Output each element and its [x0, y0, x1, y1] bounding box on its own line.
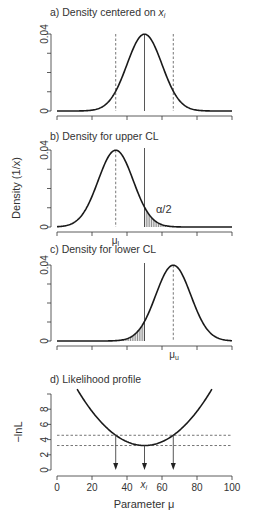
panel-title: a) Density centered on xi	[50, 6, 166, 19]
likelihood-curve	[77, 389, 212, 445]
panel-title: b) Density for upper CL	[50, 130, 159, 142]
y-tick-label: 8	[39, 406, 50, 412]
x-tick-label: 80	[191, 482, 203, 493]
y-tick-label: 6	[39, 421, 50, 427]
x-tick-label: 100	[224, 482, 241, 493]
y-axis-title: Density (1/x)	[10, 157, 22, 219]
y-tick-label: 0.04	[39, 255, 50, 275]
arrow-head-icon	[142, 463, 147, 470]
mu-label: μu	[169, 349, 179, 361]
y-axis-title: −lnL	[12, 421, 24, 442]
arrow-head-icon	[171, 463, 176, 470]
y-tick-label: 0	[39, 467, 50, 473]
panel-title: d) Likelihood profile	[50, 373, 141, 385]
x-tick-label: 60	[156, 482, 168, 493]
x-tick-label: 20	[86, 482, 98, 493]
panel-a: a) Density centered on xi00.04	[39, 6, 232, 120]
figure-likelihood-confidence-limits: a) Density centered on xi00.04b) Density…	[0, 0, 255, 521]
panel-title: c) Density for lower CL	[50, 243, 156, 255]
y-tick-label: 0	[39, 108, 50, 114]
x-tick-label: 40	[121, 482, 133, 493]
panel-d: d) Likelihood profile02468−lnL0204060801…	[12, 373, 241, 510]
panel-b: b) Density for upper CL00.04α/2μl	[39, 130, 232, 247]
y-tick-label: 4	[39, 436, 50, 442]
y-tick-label: 0	[39, 224, 50, 230]
y-tick-label: 0	[39, 338, 50, 344]
alpha-label: α/2	[156, 203, 172, 215]
panel-c: c) Density for lower CL00.04μu	[39, 243, 232, 361]
xi-label: xi	[140, 479, 148, 491]
y-tick-label: 0.04	[39, 140, 50, 160]
x-axis-title: Parameter μ	[114, 498, 175, 510]
arrow-head-icon	[113, 463, 118, 470]
x-tick-label: 0	[54, 482, 60, 493]
y-tick-label: 0.04	[39, 24, 50, 44]
y-tick-label: 2	[39, 452, 50, 458]
